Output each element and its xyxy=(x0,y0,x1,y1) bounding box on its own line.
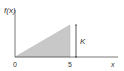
height-label: K xyxy=(80,37,86,46)
y-axis-label: f(x) xyxy=(4,6,16,15)
shaded-region xyxy=(15,25,70,57)
pdf-diagram: f(x) K 0 5 x xyxy=(0,0,124,71)
tick-end: 5 xyxy=(68,61,72,68)
tick-origin: 0 xyxy=(13,61,17,68)
x-axis-label: x xyxy=(110,61,115,68)
